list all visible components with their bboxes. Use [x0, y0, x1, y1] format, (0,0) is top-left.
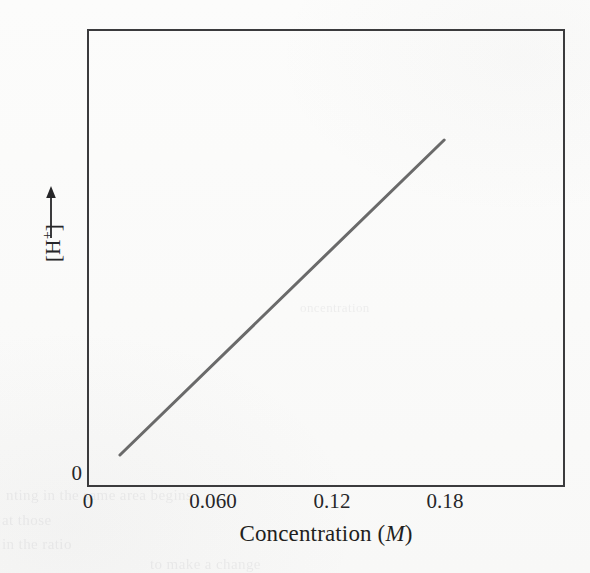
x-tick-label-0-060: 0.060 — [189, 489, 237, 514]
y-axis-title-close: ] — [41, 224, 65, 231]
x-tick-label-0-12: 0.12 — [313, 489, 350, 514]
y-axis-title-open: [H — [41, 239, 65, 262]
x-tick-label-0: 0 — [83, 489, 94, 514]
y-axis-zero-label: 0 — [58, 461, 82, 486]
y-axis-title-charge: + — [40, 231, 55, 239]
y-axis-label-group: [H+] — [30, 186, 76, 318]
data-series-line — [120, 140, 444, 455]
x-axis-title-unit: M — [385, 521, 404, 546]
x-tick-label-0-18: 0.18 — [426, 489, 463, 514]
x-axis-title-suffix: ) — [405, 521, 413, 546]
plot-canvas — [0, 0, 590, 573]
x-axis-title: Concentration (M) — [239, 521, 412, 547]
figure-container: nting in the same area begins at those i… — [0, 0, 590, 573]
x-axis-title-prefix: Concentration ( — [239, 521, 385, 546]
y-axis-title: [H+] — [41, 201, 67, 285]
